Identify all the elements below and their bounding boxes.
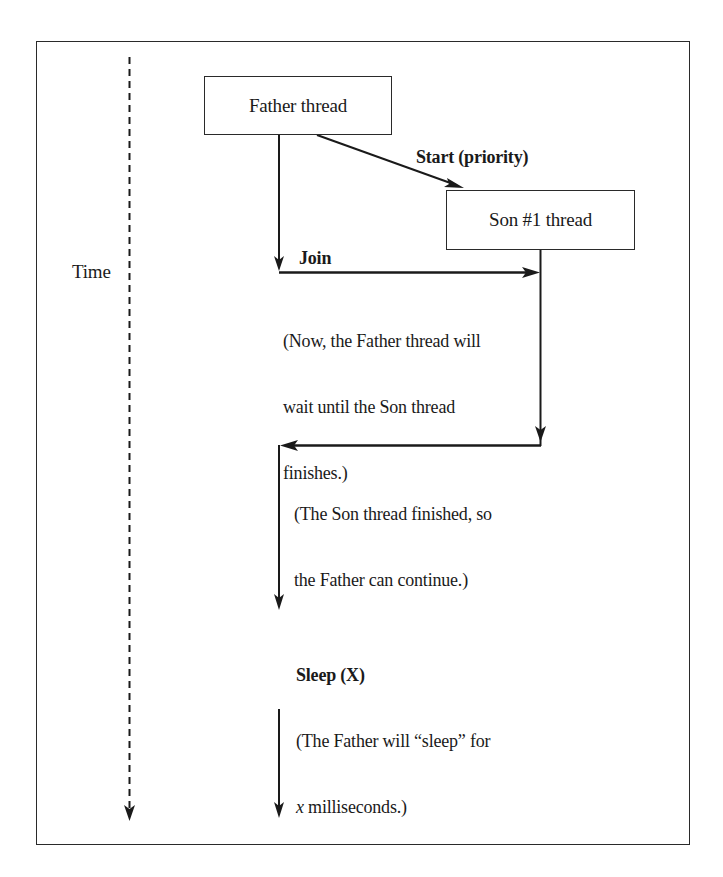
time-axis-label: Time — [72, 261, 111, 283]
sleep-label: Sleep (X) — [296, 664, 490, 686]
son-thread-box: Son #1 thread — [446, 190, 635, 250]
return-note: (The Son thread finished, so the Father … — [294, 459, 492, 635]
father-thread-label: Father thread — [249, 95, 347, 117]
sleep-variable: x — [296, 797, 304, 817]
father-thread-box: Father thread — [204, 76, 392, 135]
return-note-line: the Father can continue.) — [294, 569, 492, 591]
sleep-note-rest: milliseconds.) — [304, 797, 407, 817]
after-sleep-arrow — [274, 709, 284, 818]
son-thread-label: Son #1 thread — [489, 209, 592, 231]
sleep-note-line: x milliseconds.) — [296, 796, 490, 818]
sleep-note-line: (The Father will “sleep” for — [296, 730, 490, 752]
father-to-join-arrow — [274, 135, 284, 271]
sleep-block: Sleep (X) (The Father will “sleep” for x… — [296, 620, 490, 862]
start-label: Start (priority) — [416, 146, 528, 168]
join-note-line: (Now, the Father thread will — [283, 330, 481, 352]
return-note-line: (The Son thread finished, so — [294, 503, 492, 525]
join-note-line: wait until the Son thread — [283, 396, 481, 418]
join-label: Join — [299, 247, 331, 269]
son-lifeline-arrow — [535, 250, 546, 446]
diagram-canvas: Father thread Son #1 thread Time Start (… — [0, 0, 723, 877]
time-axis — [124, 57, 135, 821]
